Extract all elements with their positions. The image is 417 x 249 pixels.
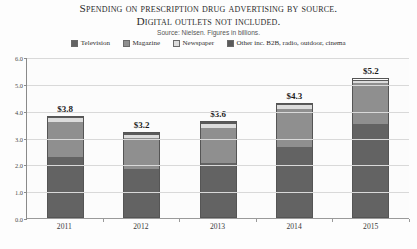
y-axis-tick-label-6: 6.0 <box>15 55 23 62</box>
chart-source-note: Source: Nielsen. Figures in billions. <box>0 28 417 37</box>
y-axis-tick-mark-3 <box>24 139 27 140</box>
bar-segment-2013-1[interactable] <box>201 128 236 163</box>
gridline-4 <box>27 112 409 113</box>
bar-segment-2013-0[interactable] <box>201 163 236 217</box>
stacked-bar-2011[interactable]: $3.8 <box>47 116 84 218</box>
x-axis-tick-label-2013: 2013 <box>179 222 256 231</box>
y-axis-tick-mark-4 <box>24 112 27 113</box>
gridline-5 <box>27 85 409 86</box>
y-axis-tick-label-2: 2.0 <box>15 162 23 169</box>
y-axis-tick-mark-6 <box>24 58 27 59</box>
x-axis-tick-label-2011: 2011 <box>26 222 103 231</box>
x-axis-tick-label-2012: 2012 <box>103 222 180 231</box>
bar-total-label-2015: $5.2 <box>363 66 379 76</box>
y-axis-tick-mark-2 <box>24 165 27 166</box>
legend-item-1[interactable]: Magazine <box>123 39 160 47</box>
chart-title-block: Spending on prescription drug advertisin… <box>0 2 417 37</box>
bar-segment-2015-1[interactable] <box>353 83 388 124</box>
y-axis-tick-mark-5 <box>24 85 27 86</box>
stacked-bar-2013[interactable]: $3.6 <box>200 121 237 218</box>
chart-title-line-2: Digital outlets not included. <box>0 15 417 28</box>
legend-item-0[interactable]: Television <box>71 39 110 47</box>
bar-segment-2014-1[interactable] <box>277 109 312 147</box>
y-axis-tick-mark-1 <box>24 192 27 193</box>
chart-title-line-1: Spending on prescription drug advertisin… <box>0 2 417 15</box>
gridline-6 <box>27 58 409 59</box>
x-axis-tick-label-2014: 2014 <box>256 222 333 231</box>
gridline-3 <box>27 139 409 140</box>
gridline-1 <box>27 192 409 193</box>
bar-segment-2012-1[interactable] <box>124 138 159 168</box>
legend-label-0: Television <box>81 39 110 47</box>
y-axis-tick-label-5: 5.0 <box>15 81 23 88</box>
y-axis-tick-label-1: 1.0 <box>15 189 23 196</box>
chart-container: Spending on prescription drug advertisin… <box>0 0 417 249</box>
bar-total-label-2012: $3.2 <box>134 120 150 130</box>
stacked-bar-2015[interactable]: $5.2 <box>352 78 389 218</box>
bar-total-label-2014: $4.3 <box>287 91 303 101</box>
legend-item-3[interactable]: Other inc. B2B, radio, outdoor, cinema <box>227 39 346 47</box>
legend-label-3: Other inc. B2B, radio, outdoor, cinema <box>237 39 346 47</box>
stacked-bar-2014[interactable]: $4.3 <box>276 103 313 218</box>
x-axis-tick-labels: 20112012201320142015 <box>26 222 409 231</box>
stacked-bar-2012[interactable]: $3.2 <box>123 132 160 218</box>
y-axis-tick-label-3: 3.0 <box>15 135 23 142</box>
gridline-2 <box>27 165 409 166</box>
legend-swatch-icon-2 <box>173 40 180 47</box>
y-axis-tick-label-4: 4.0 <box>15 108 23 115</box>
legend-item-2[interactable]: Newspaper <box>173 39 214 47</box>
x-axis-tick-mark-4 <box>409 219 410 222</box>
plot-wrap: $3.8$3.2$3.6$4.3$5.2 0.01.02.03.04.05.06… <box>26 58 409 219</box>
legend-label-2: Newspaper <box>183 39 215 47</box>
legend-swatch-icon-0 <box>71 40 78 47</box>
bar-segment-2014-0[interactable] <box>277 147 312 217</box>
legend-swatch-icon-1 <box>123 40 130 47</box>
legend-swatch-icon-3 <box>227 40 234 47</box>
legend-label-1: Magazine <box>132 39 160 47</box>
x-axis-tick-label-2015: 2015 <box>332 222 409 231</box>
y-axis-tick-label-0: 0.0 <box>15 216 23 223</box>
plot-area: $3.8$3.2$3.6$4.3$5.2 0.01.02.03.04.05.06… <box>26 58 409 219</box>
chart-legend: TelevisionMagazineNewspaperOther inc. B2… <box>0 39 417 47</box>
